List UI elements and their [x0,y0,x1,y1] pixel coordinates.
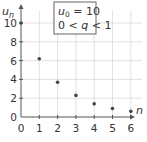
x-tick-label: 1 [36,122,43,134]
annotation-line-1: u0 = 10 [58,5,100,19]
data-point [111,107,115,111]
data-point [92,102,96,106]
data-point [129,110,133,114]
x-tick-label: 3 [73,122,80,134]
sequence-scatter-chart: 01234560246810 un n u0 = 10 0 < q < 1 [0,0,147,142]
x-tick-label: 0 [18,122,25,134]
y-tick-label: 0 [10,111,17,123]
y-axis-label: un [2,5,14,20]
y-tick-label: 4 [10,73,17,85]
x-tick-label: 5 [109,122,116,134]
y-tick-label: 6 [10,55,17,67]
data-point [19,21,23,25]
x-tick-label: 2 [54,122,61,134]
data-point [56,80,60,84]
annotation-box: u0 = 10 0 < q < 1 [54,2,111,34]
data-point [38,57,42,61]
y-axis-arrow-icon [19,4,24,9]
annotation-line-2: 0 < q < 1 [58,19,111,32]
y-tick-label: 2 [10,92,17,104]
x-tick-label: 4 [91,122,98,134]
x-tick-label: 6 [127,122,134,134]
tick-labels: 01234560246810 [4,17,135,134]
y-tick-label: 8 [10,36,17,48]
data-point [74,94,78,98]
x-axis-label: n [136,104,143,117]
